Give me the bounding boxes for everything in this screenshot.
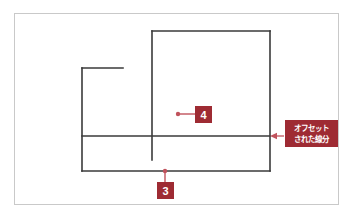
callout-badge-4[interactable]: 4 bbox=[195, 106, 212, 123]
diagram-canvas: 4 3 オフセット された線分 bbox=[0, 0, 357, 218]
callout-3-anchor-dot bbox=[163, 169, 167, 173]
offset-annotation-line-1: オフセット bbox=[294, 123, 330, 134]
callout-badge-4-label: 4 bbox=[200, 109, 206, 121]
offset-annotation-label[interactable]: オフセット された線分 bbox=[285, 120, 338, 147]
offset-arrow-head bbox=[270, 133, 277, 139]
callout-badge-3[interactable]: 3 bbox=[157, 182, 174, 199]
callout-leaders bbox=[165, 114, 196, 183]
geometry-lines bbox=[82, 31, 270, 171]
offset-label-arrow bbox=[270, 133, 284, 139]
callout-4-anchor-dot bbox=[176, 112, 180, 116]
diagram-vector-layer bbox=[0, 0, 357, 218]
callout-badge-3-label: 3 bbox=[162, 185, 168, 197]
offset-annotation-line-2: された線分 bbox=[294, 134, 330, 145]
